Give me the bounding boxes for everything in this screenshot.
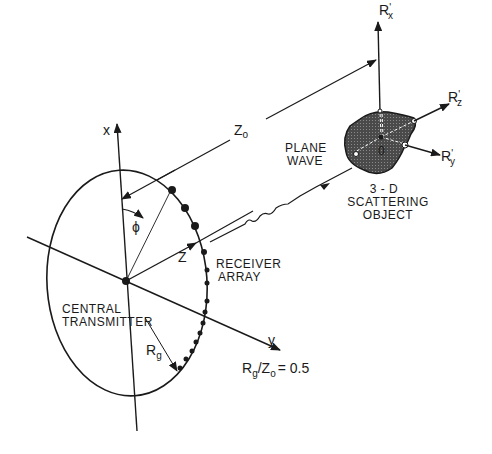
phi-arc bbox=[122, 209, 143, 218]
z-axis-extension bbox=[196, 211, 253, 243]
z0-dimension-arrow-left bbox=[122, 170, 175, 199]
phi-label: ϕ bbox=[132, 219, 140, 235]
transmitter-label-2: TRANSMITTER bbox=[62, 315, 153, 329]
y-axis bbox=[27, 237, 280, 350]
rx-prime-label: R'x bbox=[379, 2, 393, 21]
receiver-label-1: RECEIVER bbox=[216, 257, 281, 271]
object-x-intercept bbox=[378, 109, 382, 113]
x-axis-label: x bbox=[103, 122, 110, 138]
rz-prime-label: R'z bbox=[448, 89, 462, 108]
object-origin-label: 0 bbox=[378, 144, 385, 158]
receiver-radius-line bbox=[126, 190, 171, 281]
rx-prime-axis bbox=[378, 22, 380, 112]
y-axis-label: y bbox=[268, 332, 275, 348]
z-axis-label: Z bbox=[178, 249, 187, 265]
ry-prime-axis bbox=[405, 145, 440, 155]
scattering-geometry-diagram: x y Z ϕ Zo PLANE WAVE 0 3 - D SCATTERING… bbox=[0, 0, 492, 454]
object-label-2: SCATTERING bbox=[347, 195, 428, 209]
plane-wave-label-1: PLANE bbox=[285, 141, 327, 155]
transmitter-label-1: CENTRAL bbox=[62, 302, 122, 316]
receiver-label-2: ARRAY bbox=[218, 270, 261, 284]
object-origin-dot bbox=[379, 135, 384, 140]
receiver-array bbox=[168, 186, 210, 371]
rg-label: Rg bbox=[146, 342, 162, 361]
object-label-1: 3 - D bbox=[370, 182, 399, 196]
z0-label: Zo bbox=[234, 122, 249, 140]
z0-dimension-upper bbox=[266, 60, 376, 119]
plane-wave-line bbox=[210, 168, 352, 242]
object-wave-intercept bbox=[354, 152, 359, 157]
ratio-label: Rg/Zo= 0.5 bbox=[242, 360, 309, 379]
rz-prime-axis bbox=[414, 104, 449, 121]
plane-wave-label-2: WAVE bbox=[287, 154, 323, 168]
central-transmitter-dot bbox=[122, 277, 130, 285]
object-label-3: OBJECT bbox=[363, 208, 414, 222]
ry-prime-label: R'y bbox=[441, 148, 455, 167]
